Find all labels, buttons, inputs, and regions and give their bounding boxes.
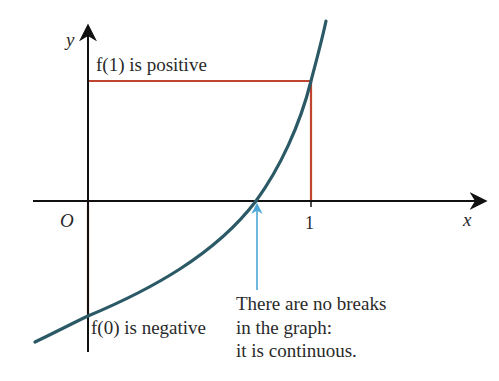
note-line-3: it is continuous.	[236, 340, 357, 361]
continuity-note: There are no breaks in the graph: it is …	[236, 293, 386, 361]
note-line-2: in the graph:	[236, 317, 332, 338]
f1-positive-label: f(1) is positive	[96, 54, 207, 76]
f0-negative-label: f(0) is negative	[91, 317, 206, 339]
y-axis-label: y	[64, 29, 75, 50]
continuity-diagram: y x O 1 f(1) is positive f(0) is negativ…	[0, 0, 499, 381]
note-line-1: There are no breaks	[236, 293, 386, 314]
origin-label: O	[60, 210, 74, 231]
x-tick-label-1: 1	[305, 213, 314, 233]
guide-lines	[88, 81, 311, 316]
x-axis-label: x	[462, 209, 472, 230]
